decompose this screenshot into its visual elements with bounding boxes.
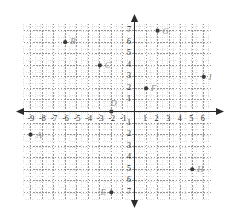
y-tick-label: 1	[127, 119, 131, 127]
point-label-g: G	[163, 27, 169, 36]
data-point-b	[63, 40, 67, 44]
x-tick-label: -1	[120, 115, 127, 123]
x-tick-label: -6	[62, 115, 69, 123]
point-label-h: H	[197, 165, 203, 174]
x-tick-label: 4	[178, 115, 182, 123]
y-tick-label: 3	[127, 72, 131, 80]
x-axis-arrow-right	[216, 108, 224, 115]
y-tick-label: 6	[127, 176, 131, 184]
data-point-f	[144, 86, 148, 90]
data-point-c	[98, 63, 102, 67]
point-label-e: E	[100, 188, 105, 197]
point-label-i: I	[209, 73, 212, 82]
point-label-d: D	[110, 99, 116, 108]
data-point-e	[109, 190, 113, 194]
y-tick-label: 5	[127, 49, 131, 57]
point-label-a: A	[37, 131, 42, 140]
x-tick-label: 5	[189, 115, 193, 123]
y-tick-label: 4	[127, 153, 131, 161]
x-axis-arrow-left	[16, 108, 24, 115]
x-tick-label: -9	[28, 115, 35, 123]
y-axis-arrow-up	[131, 14, 138, 22]
x-tick-label: 3	[166, 115, 170, 123]
y-axis-arrow-down	[131, 200, 138, 208]
point-label-c: C	[105, 61, 111, 70]
grid-canvas	[0, 0, 236, 218]
y-tick-label: 6	[127, 38, 131, 46]
y-tick-label: 7	[127, 188, 131, 196]
x-tick-label: -2	[108, 115, 115, 123]
x-tick-label: -8	[39, 115, 46, 123]
y-tick-label: 2	[127, 84, 131, 92]
x-tick-label: -3	[97, 115, 104, 123]
axes	[16, 14, 224, 208]
x-tick-label: -5	[74, 115, 81, 123]
x-tick-label: -4	[85, 115, 92, 123]
point-label-f: F	[151, 84, 156, 93]
data-point-a	[28, 133, 32, 137]
data-point-g	[156, 29, 160, 33]
data-point-h	[190, 167, 194, 171]
y-tick-label: 1	[127, 95, 131, 103]
data-point-d	[109, 109, 113, 113]
y-tick-label: 7	[127, 26, 131, 34]
x-tick-label: -7	[51, 115, 58, 123]
y-tick-label: 2	[127, 130, 131, 138]
x-tick-label: 1	[143, 115, 147, 123]
y-tick-label: 5	[127, 165, 131, 173]
y-tick-label: 4	[127, 61, 131, 69]
data-point-i	[202, 75, 206, 79]
x-tick-label: 6	[201, 115, 205, 123]
point-label-b: B	[70, 37, 75, 46]
coordinate-plane: -9-8-7-6-5-4-3-2-112345676543211234567 A…	[0, 0, 236, 218]
x-tick-label: 2	[155, 115, 159, 123]
y-tick-label: 3	[127, 142, 131, 150]
